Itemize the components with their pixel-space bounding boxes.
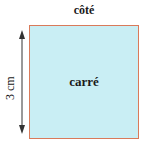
square-shape: carré — [29, 25, 139, 139]
side-length-label: 3 cm — [3, 76, 18, 100]
square-label: carré — [30, 74, 138, 90]
side-top-label: côté — [29, 3, 139, 17]
